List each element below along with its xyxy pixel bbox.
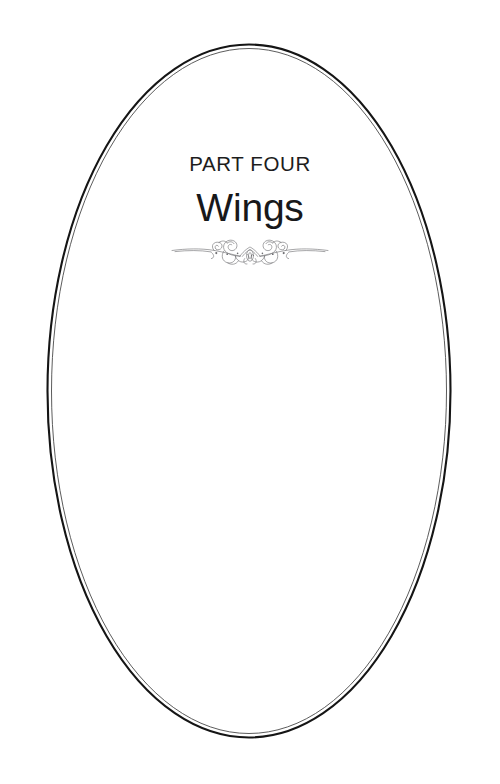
part-label: PART FOUR [0, 152, 500, 176]
book-part-title-page: PART FOUR Wings [0, 0, 500, 784]
ellipse-frame [0, 0, 500, 784]
flourish-divider-ornament [170, 236, 330, 272]
page-title: Wings [0, 186, 500, 230]
